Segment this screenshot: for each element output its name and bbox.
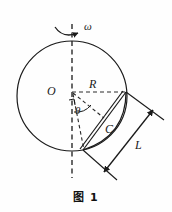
dimension-line-L: [104, 110, 153, 172]
dimension-extension-top: [126, 92, 164, 120]
angular-velocity-arrow-icon: [55, 27, 78, 35]
label-angle-theta: θ: [75, 105, 80, 116]
label-radius-R: R: [89, 78, 96, 90]
chord-strip-line-inner: [80, 91, 123, 149]
figure-caption: 图 1: [0, 188, 172, 204]
label-length-L: L: [135, 139, 142, 151]
label-region-C: C: [105, 123, 113, 135]
label-center-O: O: [47, 85, 56, 97]
label-angular-velocity-omega: ω: [84, 21, 92, 32]
dimension-extension-bottom: [83, 150, 117, 180]
figure-diagram: O R θ C L ω 图 1: [0, 0, 172, 212]
